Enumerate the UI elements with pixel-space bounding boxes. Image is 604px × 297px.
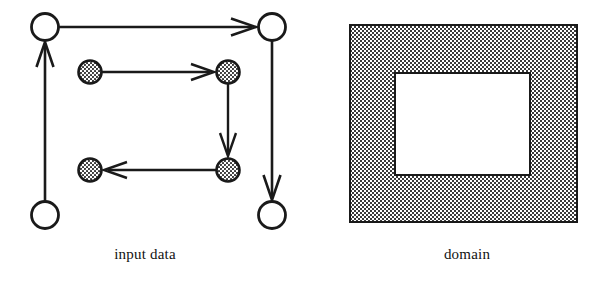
- edge-inner-bottom: [104, 162, 216, 178]
- domain-region: [350, 25, 577, 222]
- graph-node-shaded-top-right: [217, 61, 240, 84]
- caption-input-data: input data: [0, 246, 290, 263]
- graph-node-shaded-bottom-right: [217, 159, 240, 182]
- edge-outer-right: [264, 41, 281, 200]
- edge-outer-top: [59, 19, 256, 36]
- graph-node-shaded-bottom-left: [79, 159, 102, 182]
- edge-inner-right: [220, 84, 236, 156]
- caption-domain: domain: [330, 246, 604, 263]
- graph-node-open-bottom-left: [32, 202, 59, 229]
- edge-inner-top: [102, 64, 214, 80]
- input-data-graph: [32, 14, 286, 229]
- graph-node-open-bottom-right: [259, 202, 286, 229]
- graph-node-open-top-left: [32, 14, 59, 41]
- domain-inner-hole: [395, 73, 530, 175]
- edge-outer-left: [37, 42, 54, 201]
- graph-node-shaded-top-left: [79, 61, 102, 84]
- graph-node-open-top-right: [259, 14, 286, 41]
